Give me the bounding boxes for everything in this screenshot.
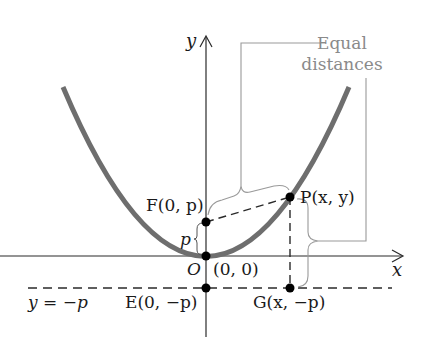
point-e [202, 284, 211, 293]
focus-label: F(0, p) [146, 195, 204, 215]
callout-text-distances: distances [301, 54, 382, 74]
origin-coords-label: (0, 0) [213, 259, 259, 279]
p-distance-label: p [180, 229, 191, 249]
brace-pg [297, 199, 318, 287]
x-axis-label: x [392, 259, 402, 280]
y-axis-label: y [185, 30, 197, 51]
point-p [286, 193, 295, 202]
directrix-label: y = −p [27, 292, 88, 312]
point-f [202, 218, 211, 227]
callout-text-equal: Equal [317, 33, 367, 53]
brace-fp [208, 186, 289, 216]
origin-label: O [187, 259, 201, 279]
point-o [202, 252, 211, 261]
parabola-diagram: y x Equal distances F(0, p) P(x, y) p O … [0, 0, 428, 353]
g-point-label: G(x, −p) [253, 292, 325, 312]
brace-p [194, 223, 203, 255]
point-p-label: P(x, y) [300, 187, 355, 207]
e-point-label: E(0, −p) [125, 292, 197, 312]
